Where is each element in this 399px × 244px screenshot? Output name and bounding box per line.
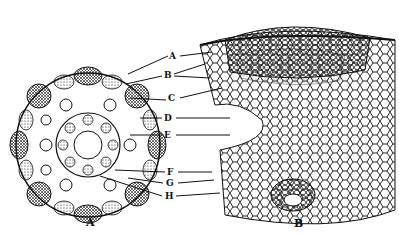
panel-b-section <box>200 27 395 224</box>
label-d: D <box>164 114 172 123</box>
diagram-drawing <box>0 0 399 244</box>
panel-caption-b: B <box>294 217 303 230</box>
label-e: E <box>164 131 171 140</box>
panel-a-section <box>10 67 166 223</box>
label-f: F <box>167 168 173 177</box>
label-h: H <box>165 192 174 201</box>
label-g: G <box>166 179 174 188</box>
label-c: C <box>168 94 175 103</box>
label-a: A <box>169 52 176 61</box>
panel-caption-a: A <box>86 216 95 229</box>
label-b: B <box>164 71 172 80</box>
